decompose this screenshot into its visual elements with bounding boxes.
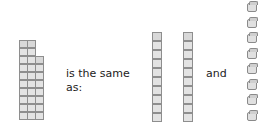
is-the-same-text: is the same [66, 67, 130, 80]
as-text: as: [66, 81, 82, 94]
single-cube [247, 3, 257, 12]
unit-cube [27, 48, 36, 56]
single-cube [247, 34, 257, 43]
unit-cube [35, 56, 44, 64]
single-cube [247, 65, 257, 74]
unit-cube [35, 72, 44, 80]
unit-cube [35, 96, 44, 104]
unit-cube [35, 80, 44, 88]
unit-cube [152, 68, 162, 77]
unit-cube [183, 95, 193, 104]
unit-cube [152, 86, 162, 95]
unit-cube [35, 88, 44, 96]
unit-cube [183, 113, 193, 122]
single-cube [247, 112, 257, 121]
unit-cube [35, 112, 44, 120]
single-cube [247, 50, 257, 59]
unit-cube [152, 77, 162, 86]
unit-cube [183, 86, 193, 95]
unit-cube [183, 41, 193, 50]
unit-cube [35, 104, 44, 112]
unit-cube [183, 50, 193, 59]
unit-cube [152, 59, 162, 68]
unit-cube [152, 95, 162, 104]
unit-cube [183, 68, 193, 77]
unit-cube [183, 77, 193, 86]
single-cube [247, 19, 257, 28]
unit-cube [152, 104, 162, 113]
unit-cube [35, 64, 44, 72]
unit-cube [152, 41, 162, 50]
unit-cube [183, 104, 193, 113]
and-text: and [206, 67, 227, 80]
unit-cube [183, 32, 193, 41]
unit-cube [183, 59, 193, 68]
unit-cube [152, 50, 162, 59]
unit-cube [152, 113, 162, 122]
unit-cube [152, 32, 162, 41]
unit-cube [27, 40, 36, 48]
single-cube [247, 96, 257, 105]
single-cube [247, 81, 257, 90]
